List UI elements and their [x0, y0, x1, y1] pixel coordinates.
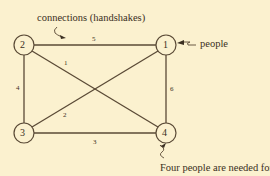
- edge-label-2: 2: [63, 112, 67, 119]
- node-3-label: 3: [20, 128, 25, 138]
- handshake-graph: [0, 0, 270, 176]
- node-1-label: 1: [163, 40, 168, 50]
- people-caption: people: [200, 39, 228, 50]
- arrowhead-connections-icon: [60, 35, 66, 39]
- edge-label-3: 3: [93, 139, 97, 146]
- node-4-label: 4: [162, 128, 167, 138]
- edge-label-6: 6: [170, 86, 174, 93]
- edge-label-1: 1: [64, 60, 68, 67]
- edge-label-5: 5: [92, 36, 96, 43]
- edge-label-4: 4: [16, 85, 20, 92]
- pointer-arrow-people-icon: [184, 42, 196, 45]
- connections-caption: connections (handshakes): [37, 13, 145, 24]
- arrowhead-footer-icon: [161, 143, 166, 148]
- footer-caption: Four people are needed for: [160, 163, 270, 174]
- node-2-label: 2: [20, 40, 25, 50]
- arrowhead-people-icon: [177, 40, 184, 45]
